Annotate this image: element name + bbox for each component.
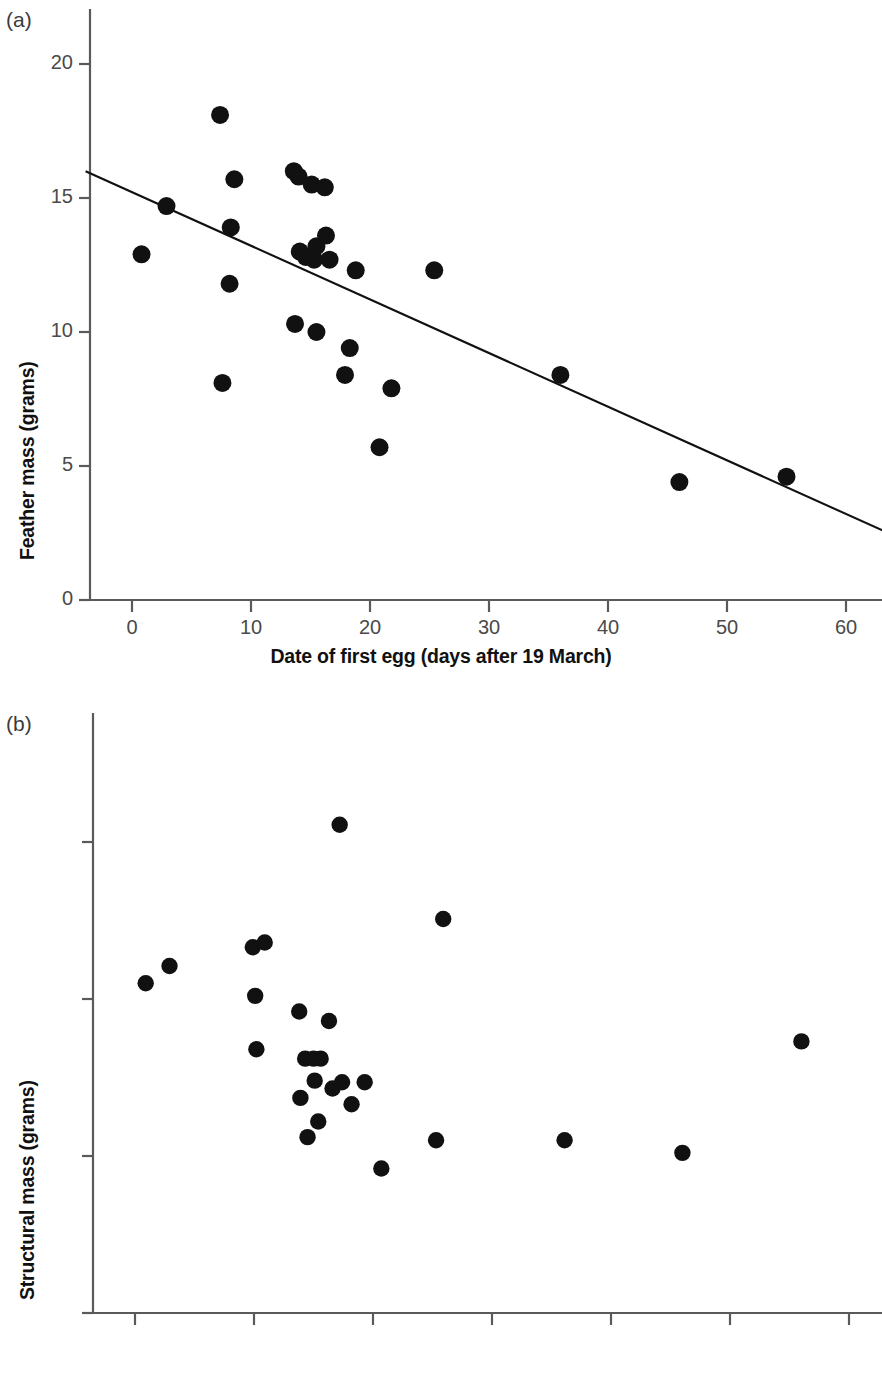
data-point: [247, 988, 263, 1004]
data-point: [161, 958, 177, 974]
data-point: [299, 1129, 315, 1145]
y-axis-tick-label: 15: [18, 185, 73, 208]
data-point: [213, 374, 231, 392]
data-point: [316, 178, 334, 196]
data-point: [356, 1074, 372, 1090]
data-point: [317, 227, 335, 245]
x-axis-tick-label: 10: [211, 616, 291, 639]
data-point: [425, 261, 443, 279]
data-point: [343, 1096, 359, 1112]
x-axis-tick-label: 20: [330, 616, 410, 639]
data-point: [382, 379, 400, 397]
x-axis-tick-label: 50: [687, 616, 767, 639]
data-point: [286, 315, 304, 333]
data-point: [291, 1003, 307, 1019]
y-axis-tick-label: 10: [18, 319, 73, 342]
data-point: [257, 934, 273, 950]
y-axis-tick-label: 0: [18, 587, 73, 610]
data-point: [428, 1132, 444, 1148]
data-point: [551, 366, 569, 384]
data-point: [312, 1050, 328, 1066]
data-point: [225, 170, 243, 188]
x-axis-tick-label: 0: [92, 616, 172, 639]
data-point: [336, 366, 354, 384]
data-point: [222, 218, 240, 236]
data-point: [321, 251, 339, 269]
data-point: [248, 1041, 264, 1057]
data-point: [373, 1160, 389, 1176]
data-point: [133, 245, 151, 263]
data-point: [670, 473, 688, 491]
panel-b-y-axis-title: Structural mass (grams): [16, 1080, 39, 1300]
data-point: [341, 339, 359, 357]
data-point: [158, 197, 176, 215]
data-point: [347, 261, 365, 279]
data-point: [138, 975, 154, 991]
panel-b: (b) Structural mass (grams) Date of firs…: [0, 700, 882, 1394]
data-point: [331, 817, 347, 833]
data-point: [556, 1132, 572, 1148]
y-axis-tick-label: 5: [18, 453, 73, 476]
data-point: [211, 106, 229, 124]
x-axis-tick-label: 40: [568, 616, 648, 639]
x-axis-tick-label: 60: [806, 616, 882, 639]
data-point: [793, 1033, 809, 1049]
data-point: [778, 468, 796, 486]
panel-a: (a) Feather mass (grams) Date of first e…: [0, 0, 882, 690]
data-point: [310, 1113, 326, 1129]
data-point: [674, 1145, 690, 1161]
data-point: [371, 438, 389, 456]
data-point: [292, 1090, 308, 1106]
data-point: [334, 1074, 350, 1090]
regression-trendline: [86, 171, 882, 531]
panel-a-x-axis-title: Date of first egg (days after 19 March): [0, 645, 882, 668]
scatter-figure: (a) Feather mass (grams) Date of first e…: [0, 0, 882, 1394]
panel-a-plot-area: [0, 0, 882, 660]
data-point: [221, 275, 239, 293]
data-point: [435, 911, 451, 927]
panel-b-plot-area: [0, 700, 882, 1360]
data-point: [307, 323, 325, 341]
data-point: [306, 1072, 322, 1088]
data-point: [321, 1013, 337, 1029]
y-axis-tick-label: 20: [18, 51, 73, 74]
x-axis-tick-label: 30: [449, 616, 529, 639]
